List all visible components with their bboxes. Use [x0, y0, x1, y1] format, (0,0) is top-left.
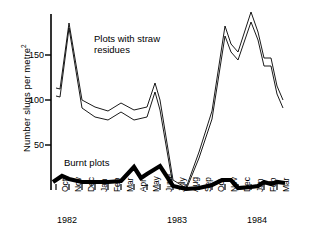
- x-tick-label-may-1983: May: [151, 176, 161, 192]
- x-tick-label-feb-1984: Feb: [268, 178, 278, 192]
- x-axis-year-1982: 1982: [57, 215, 77, 225]
- x-tick-label-oct-1983: Oct: [216, 179, 226, 192]
- x-axis-year-1984: 1984: [247, 215, 267, 225]
- x-tick-label-july-1983: July: [177, 177, 187, 192]
- x-tick-label-jan-1983: Jan: [99, 179, 109, 192]
- x-tick-label-nov-1983: Nov: [229, 177, 239, 192]
- x-tick-label-jan-1984: Jan: [255, 179, 265, 192]
- x-tick-label-mar-1983: Mar: [125, 178, 135, 192]
- x-tick-label-apr-1983: Apr: [138, 179, 148, 192]
- x-tick-label-dec-1982: Dec: [86, 177, 96, 192]
- chart-figure: Number slugs per metre2 150 100 50: [0, 0, 312, 228]
- x-tick-label-feb-1983: Feb: [112, 178, 122, 192]
- x-tick-label-mar-1984: Mar: [281, 178, 291, 192]
- x-tick-label-june-1983: June: [164, 174, 174, 192]
- x-tick-label-dec-1983: Dec: [242, 177, 252, 192]
- x-tick-label-nov-1982: Nov: [73, 177, 83, 192]
- annotation-burnt-plots: Burnt plots: [64, 157, 109, 168]
- x-tick-label-aug-1983: Aug: [190, 177, 200, 192]
- x-tick-label-sep-1983: Sep: [203, 177, 213, 192]
- x-axis-year-1983: 1983: [167, 215, 187, 225]
- x-tick-label-oct-1982: Oct: [60, 179, 70, 192]
- annotation-straw-residues: Plots with straw residues: [94, 33, 160, 55]
